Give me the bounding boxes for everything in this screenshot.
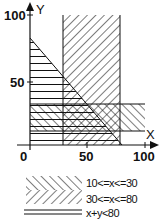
y-tick-50: 50 <box>10 76 24 89</box>
legend-label-1: 10<=x<=30 <box>86 178 137 189</box>
legend-label-2: 30<=x<=80 <box>86 194 137 205</box>
legend-swatch-double-line <box>24 210 82 214</box>
legend-swatch-forward-slash <box>26 176 82 190</box>
x-tick-0: 0 <box>20 150 27 163</box>
y-axis-label: Y <box>36 3 45 16</box>
y-tick-100: 100 <box>4 9 26 22</box>
inequality-region-diagram: Y X 100 50 0 50 100 10<=x<=30 30<=x<=80 … <box>0 0 160 224</box>
x-axis-label: X <box>146 128 155 141</box>
x-tick-100: 100 <box>133 150 155 163</box>
legend-label-3: x+y<80 <box>86 208 119 219</box>
x-tick-50: 50 <box>79 150 93 163</box>
legend-swatch-backslash <box>26 190 82 204</box>
